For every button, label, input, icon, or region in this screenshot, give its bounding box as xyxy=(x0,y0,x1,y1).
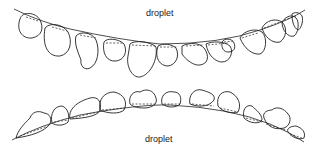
bottom-droplet-label: droplet xyxy=(145,134,173,144)
diagram-canvas xyxy=(0,0,316,152)
bottom-droplets xyxy=(16,90,305,139)
top-row xyxy=(14,9,305,77)
top-droplet-label: droplet xyxy=(146,8,174,18)
top-droplets xyxy=(19,13,303,77)
bottom-chords xyxy=(20,104,302,138)
